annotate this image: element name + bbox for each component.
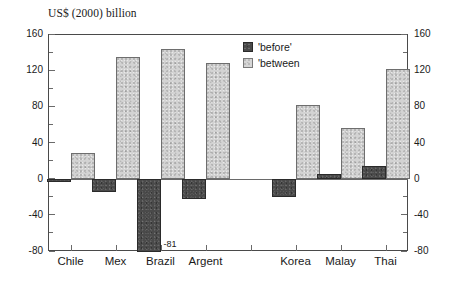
chart-title: US$ (2000) billion xyxy=(48,7,137,19)
y-tick-right--20 xyxy=(403,196,407,197)
legend-swatch-before-icon xyxy=(243,42,253,52)
y-axis-label-left--80: -80 xyxy=(29,246,43,256)
y-axis-label-left--40: -40 xyxy=(29,210,43,220)
x-tick-mex xyxy=(116,245,117,251)
y-axis-label-right-80: 80 xyxy=(414,101,425,111)
y-tick-right--80 xyxy=(401,251,407,252)
x-tick-korea xyxy=(296,245,297,251)
bar-before-argent xyxy=(182,179,206,199)
x-axis-label-thai: Thai xyxy=(374,256,396,268)
bar-before-mex xyxy=(92,179,116,193)
y-tick-left-100 xyxy=(49,88,53,89)
y-tick-left-140 xyxy=(49,52,53,53)
y-tick-left--80 xyxy=(49,251,55,252)
x-axis-label-chile: Chile xyxy=(57,256,83,268)
x-axis-label-mex: Mex xyxy=(105,256,127,268)
y-tick-left-60 xyxy=(49,124,53,125)
x-tick-argent xyxy=(206,245,207,251)
x-tick-thai xyxy=(386,245,387,251)
y-tick-left--40 xyxy=(49,214,55,215)
legend-label-before: 'before' xyxy=(258,42,292,53)
x-tick-brazil xyxy=(161,245,162,251)
x-axis-label-brazil: Brazil xyxy=(146,256,175,268)
y-axis-label-left-40: 40 xyxy=(32,138,43,148)
y-axis-label-left-120: 120 xyxy=(26,65,43,75)
bar-between-argent xyxy=(206,63,230,179)
x-tick-chile xyxy=(71,245,72,251)
bar-between-chile xyxy=(71,153,95,178)
bar-before-chile xyxy=(47,179,71,183)
bar-chart: US$ (2000) billion -80-80-40-40004040808… xyxy=(0,0,456,283)
y-axis-label-left-80: 80 xyxy=(32,101,43,111)
y-tick-right-160 xyxy=(401,34,407,35)
legend-swatch-between-icon xyxy=(243,58,253,68)
chart-legend: 'before' 'between xyxy=(243,40,300,72)
legend-item-between: 'between xyxy=(243,56,300,70)
y-tick-right-140 xyxy=(403,52,407,53)
bar-between-mex xyxy=(116,57,140,179)
bar-before-brazil xyxy=(137,179,161,252)
x-axis-label-malay: Malay xyxy=(325,256,356,268)
plot-frame-bottom xyxy=(48,250,408,251)
y-axis-label-right-120: 120 xyxy=(414,65,431,75)
x-tick-malay xyxy=(341,245,342,251)
x-tick-group-gap xyxy=(251,245,252,251)
bar-value-label-brazil: -81 xyxy=(164,240,177,249)
legend-label-between: 'between xyxy=(258,58,300,69)
y-axis-label-right-0: 0 xyxy=(414,174,420,184)
plot-area: -80-80-40-400040408080120120160160 -81 C… xyxy=(48,34,408,251)
y-axis-label-right-40: 40 xyxy=(414,138,425,148)
bar-between-thai xyxy=(386,69,410,178)
y-tick-right--60 xyxy=(403,232,407,233)
y-tick-left-160 xyxy=(49,34,55,35)
y-axis-label-right-160: 160 xyxy=(414,29,431,39)
legend-item-before: 'before' xyxy=(243,40,300,54)
bar-before-korea xyxy=(272,179,296,197)
bar-before-malay xyxy=(317,174,341,179)
y-tick-left-40 xyxy=(49,142,55,143)
y-tick-left--20 xyxy=(49,196,53,197)
plot-frame-top xyxy=(48,34,408,35)
y-tick-left--60 xyxy=(49,232,53,233)
y-tick-left-80 xyxy=(49,106,55,107)
y-axis-label-left-0: 0 xyxy=(37,174,43,184)
y-axis-label-right--80: -80 xyxy=(414,246,428,256)
x-axis-label-korea: Korea xyxy=(280,256,311,268)
bar-between-brazil xyxy=(161,49,185,178)
y-tick-left-20 xyxy=(49,160,53,161)
bar-between-korea xyxy=(296,105,320,179)
x-axis-label-argent: Argent xyxy=(189,256,223,268)
y-axis-label-right--40: -40 xyxy=(414,210,428,220)
bar-before-thai xyxy=(362,166,386,179)
y-tick-left-120 xyxy=(49,70,55,71)
y-axis-label-left-160: 160 xyxy=(26,29,43,39)
y-tick-right--40 xyxy=(401,214,407,215)
